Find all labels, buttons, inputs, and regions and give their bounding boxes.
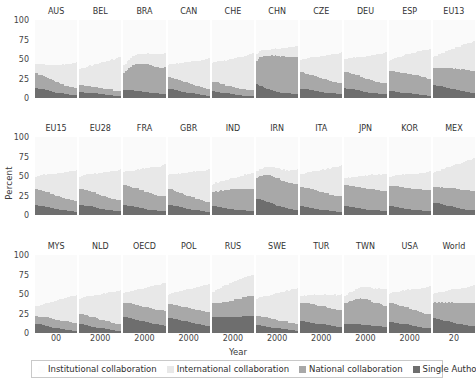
legend-item-natl[interactable]: National collaboration [299, 364, 403, 374]
y-tick-label: 25 [19, 309, 29, 318]
x-tick-label: 20 [433, 334, 475, 343]
area-national-collaboration [297, 184, 299, 210]
area-international-collaboration [76, 62, 78, 88]
x-tick-label: 2000 [300, 334, 342, 343]
stacked-areas [123, 137, 165, 215]
chart-root: Percent Year AUSBELBRACANCHECHNCZEDEUESP… [0, 0, 476, 387]
area-single-authorship [208, 96, 210, 98]
facet-label-aus: AUS [35, 7, 77, 16]
facet-panel-kor [389, 137, 431, 215]
y-tick-label: 50 [19, 172, 29, 181]
y-tick-label: 100 [14, 251, 29, 260]
facet-label-rus: RUS [212, 242, 254, 251]
area-national-collaboration [473, 191, 475, 211]
y-tick-label: 75 [19, 152, 29, 161]
facet-panel-eu15 [35, 137, 77, 215]
facet-label-oecd: OECD [123, 242, 165, 251]
area-international-collaboration [208, 58, 210, 88]
year-column [76, 255, 78, 333]
stacked-areas [79, 20, 121, 98]
facet-strip-row: AUSBELBRACANCHECHNCZEDEUESPEU13 [35, 5, 475, 19]
stacked-areas [168, 20, 210, 98]
facet-label-jpn: JPN [344, 124, 386, 133]
area-international-collaboration [385, 174, 387, 191]
stacked-areas [123, 255, 165, 333]
stacked-areas [212, 137, 254, 215]
year-column [164, 137, 166, 215]
y-tick-label: 75 [19, 35, 29, 44]
facet-label-tur: TUR [300, 242, 342, 251]
facet-panel-swe [256, 255, 298, 333]
area-national-collaboration [297, 324, 299, 331]
area-single-authorship [208, 212, 210, 215]
area-national-collaboration [429, 314, 431, 328]
facet-panel-aus [35, 20, 77, 98]
area-national-collaboration [208, 312, 210, 326]
x-tick-label: 2000 [168, 334, 210, 343]
area-international-collaboration [208, 169, 210, 202]
stacked-areas [344, 20, 386, 98]
x-tick-label: 2000 [79, 334, 121, 343]
facet-label-irn: IRN [256, 124, 298, 133]
legend-swatch-inst-icon [38, 366, 45, 373]
facet-panel-eu13 [433, 20, 475, 98]
area-single-authorship [297, 210, 299, 215]
facet-panel-eu28 [79, 137, 121, 215]
year-column [429, 20, 431, 98]
y-tick-label: 50 [19, 55, 29, 64]
facet-row-panels: 0255075100 [0, 137, 476, 215]
facet-panel-oecd [123, 255, 165, 333]
area-national-collaboration [473, 303, 475, 326]
facet-panel-world [433, 255, 475, 333]
area-national-collaboration [164, 67, 166, 94]
facet-panel-fra [123, 137, 165, 215]
area-national-collaboration [76, 323, 78, 331]
facet-strip-row: EU15EU28FRAGBRINDIRNITAJPNKORMEX [35, 122, 475, 136]
facet-panel-tur [300, 255, 342, 333]
facet-row-panels: 0255075100 [0, 20, 476, 98]
area-national-collaboration [208, 89, 210, 96]
area-national-collaboration [341, 196, 343, 212]
y-axis-ticks: 0255075100 [0, 137, 33, 215]
x-axis-ticks: 002000200020002000200020002000200020 [35, 333, 475, 347]
legend-item-intl[interactable]: International collaboration [167, 364, 289, 374]
x-tick-label: 2000 [389, 334, 431, 343]
facet-label-eu15: EU15 [35, 124, 77, 133]
facet-label-fra: FRA [123, 124, 165, 133]
area-national-collaboration [385, 83, 387, 94]
facet-label-gbr: GBR [168, 124, 210, 133]
stacked-areas [123, 20, 165, 98]
stacked-areas [168, 137, 210, 215]
stacked-areas [389, 20, 431, 98]
legend-label: International collaboration [177, 364, 289, 374]
area-single-authorship [473, 210, 475, 215]
area-national-collaboration [164, 311, 166, 326]
year-column [297, 255, 299, 333]
legend-item-single[interactable]: Single Authorship [413, 364, 476, 374]
area-single-authorship [164, 326, 166, 333]
facet-panel-rus [212, 255, 254, 333]
facet-label-chn: CHN [256, 7, 298, 16]
facet-panel-esp [389, 20, 431, 98]
year-column [164, 255, 166, 333]
year-column [473, 20, 475, 98]
area-international-collaboration [76, 170, 78, 201]
area-single-authorship [208, 326, 210, 333]
legend-item-inst[interactable]: Institutional collaboration [38, 364, 157, 374]
year-column [385, 20, 387, 98]
area-national-collaboration [297, 57, 299, 94]
area-single-authorship [164, 94, 166, 98]
chart-legend: Institutional collaborationInternational… [31, 360, 443, 378]
facet-label-ita: ITA [300, 124, 342, 133]
facet-label-pol: POL [168, 242, 210, 251]
x-tick-label: 2000 [256, 334, 298, 343]
year-column [341, 255, 343, 333]
area-single-authorship [252, 96, 254, 98]
stacked-areas [300, 137, 342, 215]
stacked-areas [344, 137, 386, 215]
area-international-collaboration [120, 290, 122, 324]
area-international-collaboration [297, 288, 299, 324]
facet-panel-nld [79, 255, 121, 333]
facet-row-panels: 0255075100 [0, 255, 476, 333]
y-tick-label: 100 [14, 16, 29, 25]
